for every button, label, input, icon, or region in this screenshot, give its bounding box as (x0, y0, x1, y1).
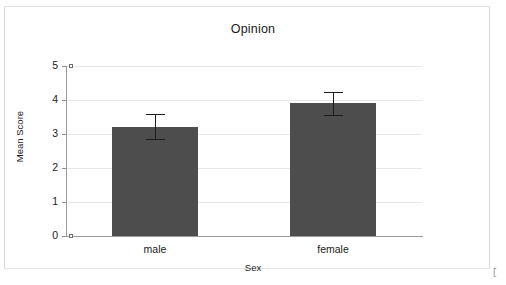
y-tick-mark (62, 202, 66, 203)
chart-figure: Opinion 012345 malefemale Sex Mean Score… (0, 0, 506, 285)
error-bar-cap (146, 139, 165, 140)
axis-marker-square (69, 64, 73, 68)
error-bar (155, 114, 156, 139)
x-tick-label: female (293, 243, 373, 255)
error-bar-cap (146, 114, 165, 115)
bar (290, 103, 376, 236)
y-tick-label: 0 (34, 229, 58, 241)
x-axis-line (66, 236, 423, 237)
y-tick-mark (62, 66, 66, 67)
error-bar-cap (324, 115, 343, 116)
figure-border-right (489, 6, 490, 268)
y-tick-label: 1 (34, 195, 58, 207)
figure-border-left (4, 6, 5, 268)
y-axis-title: Mean Score (14, 87, 25, 187)
y-tick-mark (62, 100, 66, 101)
y-tick-label: 3 (34, 127, 58, 139)
chart-title: Opinion (0, 22, 506, 36)
axis-marker-square (69, 234, 73, 238)
y-tick-label: 4 (34, 93, 58, 105)
y-tick-label: 2 (34, 161, 58, 173)
error-bar-cap (324, 92, 343, 93)
x-axis-title: Sex (0, 262, 506, 273)
bar (112, 127, 198, 236)
y-tick-mark (62, 236, 66, 237)
x-tick-label: male (115, 243, 195, 255)
grid-line (66, 66, 422, 67)
y-tick-label: 5 (34, 59, 58, 71)
y-tick-mark (62, 134, 66, 135)
error-bar (333, 92, 334, 116)
y-axis-line (66, 66, 67, 237)
figure-border-top (4, 6, 490, 7)
grid-line (66, 100, 422, 101)
y-tick-mark (62, 168, 66, 169)
corner-mark: [ (492, 268, 497, 278)
